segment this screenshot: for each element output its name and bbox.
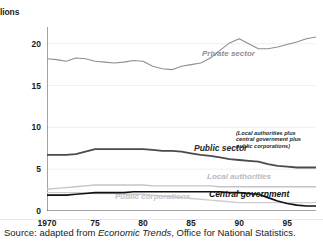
y-tick-label: 0 <box>15 206 41 216</box>
source-prefix: Source: adapted from <box>4 227 98 238</box>
series-label-public-corporations: Public corporations <box>115 192 190 201</box>
y-tick-label: 5 <box>15 164 41 174</box>
series-line-private-sector <box>47 37 316 70</box>
source-note: Source: adapted from Economic Trends, Of… <box>4 227 296 238</box>
public-sector-annotation: (Local authorities pluscentral governmen… <box>236 130 301 149</box>
series-label-local-authorities: Local authorities <box>207 172 271 181</box>
footer-divider <box>0 219 323 220</box>
series-label-central-government: Central government <box>209 189 289 199</box>
annotation-line: central government plus <box>236 136 301 142</box>
y-tick-label: 10 <box>15 122 41 132</box>
cut-off-top-text <box>0 0 323 6</box>
source-suffix: , Office for National Statistics. <box>171 227 295 238</box>
y-tick-label: 20 <box>15 39 41 49</box>
y-tick-label: 15 <box>15 81 41 91</box>
chart-svg <box>47 27 316 211</box>
plot-area <box>47 27 316 211</box>
series-label-private-sector: Private sector <box>202 49 255 58</box>
source-publication: Economic Trends <box>98 227 171 238</box>
y-axis-unit-label: lions <box>0 7 19 17</box>
annotation-line: public corporations) <box>236 143 301 149</box>
series-line-public-sector <box>47 149 316 167</box>
chart-figure: lions 05101520 19707580859095 Private se… <box>0 0 323 243</box>
